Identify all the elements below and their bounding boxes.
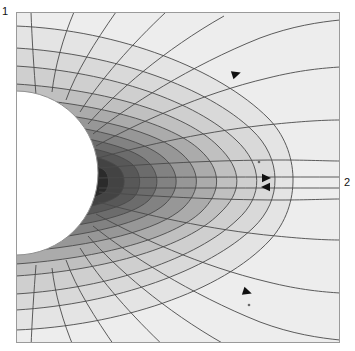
marker-dot-upper	[258, 161, 261, 164]
contour-streamline-plot	[0, 0, 355, 351]
callout-label-2: 2	[344, 177, 350, 188]
callout-label-1: 1	[2, 6, 8, 17]
figure-root: 1 2	[0, 0, 355, 351]
marker-dot-lower	[248, 304, 251, 307]
plot-field	[0, 12, 340, 348]
